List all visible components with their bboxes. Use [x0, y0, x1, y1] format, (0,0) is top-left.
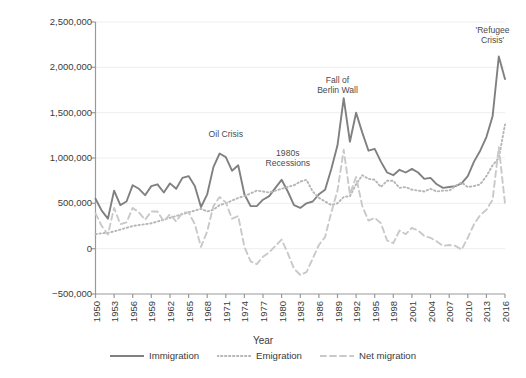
chart-annotation: Oil Crisis — [191, 129, 261, 139]
legend-swatch-icon — [320, 351, 354, 360]
x-axis-ticks: 1950195319561959196219651968197119741977… — [0, 0, 526, 378]
x-tick-label: 1983 — [295, 301, 306, 322]
x-tick-label: 1992 — [351, 301, 362, 322]
legend-item-emigration[interactable]: Emigration — [217, 350, 302, 361]
x-tick-label: 1962 — [165, 301, 176, 322]
x-tick-label: 1995 — [370, 301, 381, 322]
chart-annotation: Fall of Berlin Wall — [303, 75, 373, 95]
chart-annotation: 'Refugee Crisis' — [458, 25, 526, 45]
x-tick-label: 1956 — [128, 301, 139, 322]
legend-label: Immigration — [149, 350, 199, 361]
chart-legend: ImmigrationEmigrationNet migration — [0, 350, 526, 361]
legend-swatch-icon — [110, 351, 144, 360]
migration-line-chart: Migration 2,500,0002,000,0001,500,0001,0… — [0, 0, 526, 378]
legend-item-net-migration[interactable]: Net migration — [320, 350, 416, 361]
x-tick-label: 1989 — [333, 301, 344, 322]
legend-item-immigration[interactable]: Immigration — [110, 350, 199, 361]
x-tick-label: 2016 — [500, 301, 511, 322]
x-tick-label: 1980 — [277, 301, 288, 322]
x-tick-label: 1968 — [202, 301, 213, 322]
x-tick-label: 2007 — [444, 301, 455, 322]
legend-label: Emigration — [256, 350, 302, 361]
x-tick-label: 1971 — [221, 301, 232, 322]
x-tick-label: 1977 — [258, 301, 269, 322]
x-tick-label: 1950 — [91, 301, 102, 322]
x-tick-label: 2013 — [481, 301, 492, 322]
chart-annotation: 1980s Recessions — [253, 148, 323, 168]
legend-label: Net migration — [359, 350, 416, 361]
x-tick-label: 2010 — [463, 301, 474, 322]
x-tick-label: 1959 — [146, 301, 157, 322]
x-tick-label: 2004 — [426, 301, 437, 322]
x-tick-label: 1974 — [239, 301, 250, 322]
x-tick-label: 1953 — [109, 301, 120, 322]
legend-swatch-icon — [217, 351, 251, 360]
x-tick-label: 2001 — [407, 301, 418, 322]
x-tick-label: 1998 — [388, 301, 399, 322]
x-axis-label: Year — [0, 335, 526, 346]
x-tick-label: 1965 — [184, 301, 195, 322]
x-tick-label: 1986 — [314, 301, 325, 322]
